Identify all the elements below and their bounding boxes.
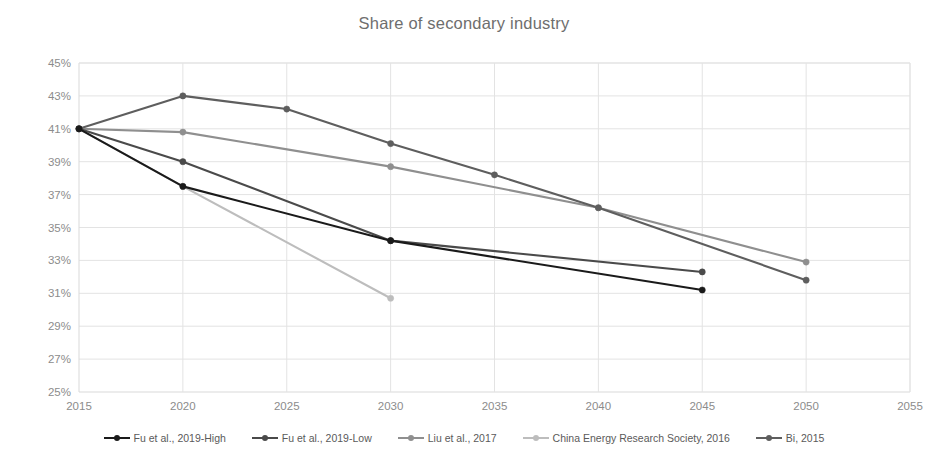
- series-marker: [180, 93, 186, 99]
- series-marker: [388, 238, 394, 244]
- chart-legend: Fu et al., 2019-HighFu et al., 2019-LowL…: [0, 432, 928, 444]
- legend-label: China Energy Research Society, 2016: [553, 432, 730, 444]
- plot-area: [0, 0, 928, 468]
- legend-item[interactable]: Bi, 2015: [756, 432, 825, 444]
- series-marker: [388, 295, 394, 301]
- series-marker: [180, 159, 186, 165]
- series-marker: [284, 106, 290, 112]
- series-marker: [595, 205, 601, 211]
- legend-item[interactable]: China Energy Research Society, 2016: [523, 432, 730, 444]
- legend-label: Liu et al., 2017: [428, 432, 497, 444]
- x-axis-tick-label: 2050: [776, 400, 836, 412]
- y-axis-tick-label: 35%: [31, 222, 71, 234]
- chart-container: Share of secondary industry 25%27%29%31%…: [0, 0, 928, 468]
- legend-marker-icon: [398, 433, 424, 443]
- legend-item[interactable]: Fu et al., 2019-Low: [252, 432, 372, 444]
- y-axis-tick-label: 33%: [31, 254, 71, 266]
- y-axis-tick-label: 29%: [31, 320, 71, 332]
- y-axis-tick-label: 41%: [31, 123, 71, 135]
- legend-marker-icon: [104, 433, 130, 443]
- y-axis-tick-label: 31%: [31, 287, 71, 299]
- legend-item[interactable]: Fu et al., 2019-High: [104, 432, 226, 444]
- legend-label: Fu et al., 2019-Low: [282, 432, 372, 444]
- y-axis-tick-label: 43%: [31, 90, 71, 102]
- y-axis-tick-label: 45%: [31, 57, 71, 69]
- legend-label: Bi, 2015: [786, 432, 825, 444]
- series-marker: [491, 172, 497, 178]
- series-marker: [180, 183, 186, 189]
- y-axis-tick-label: 27%: [31, 353, 71, 365]
- series-marker: [180, 129, 186, 135]
- legend-marker-icon: [252, 433, 278, 443]
- x-axis-tick-label: 2040: [568, 400, 628, 412]
- series-marker: [803, 259, 809, 265]
- x-axis-tick-label: 2045: [672, 400, 732, 412]
- y-axis-tick-label: 25%: [31, 386, 71, 398]
- series-marker: [699, 269, 705, 275]
- series-marker: [76, 126, 82, 132]
- y-axis-tick-label: 37%: [31, 189, 71, 201]
- series-marker: [388, 141, 394, 147]
- legend-item[interactable]: Liu et al., 2017: [398, 432, 497, 444]
- x-axis-tick-label: 2020: [153, 400, 213, 412]
- x-axis-tick-label: 2035: [465, 400, 525, 412]
- series-marker: [699, 287, 705, 293]
- x-axis-tick-label: 2025: [257, 400, 317, 412]
- legend-marker-icon: [756, 433, 782, 443]
- y-axis-tick-label: 39%: [31, 156, 71, 168]
- legend-label: Fu et al., 2019-High: [134, 432, 226, 444]
- series-marker: [388, 164, 394, 170]
- legend-marker-icon: [523, 433, 549, 443]
- x-axis-tick-label: 2055: [880, 400, 928, 412]
- series-marker: [803, 277, 809, 283]
- x-axis-tick-label: 2015: [49, 400, 109, 412]
- x-axis-tick-label: 2030: [361, 400, 421, 412]
